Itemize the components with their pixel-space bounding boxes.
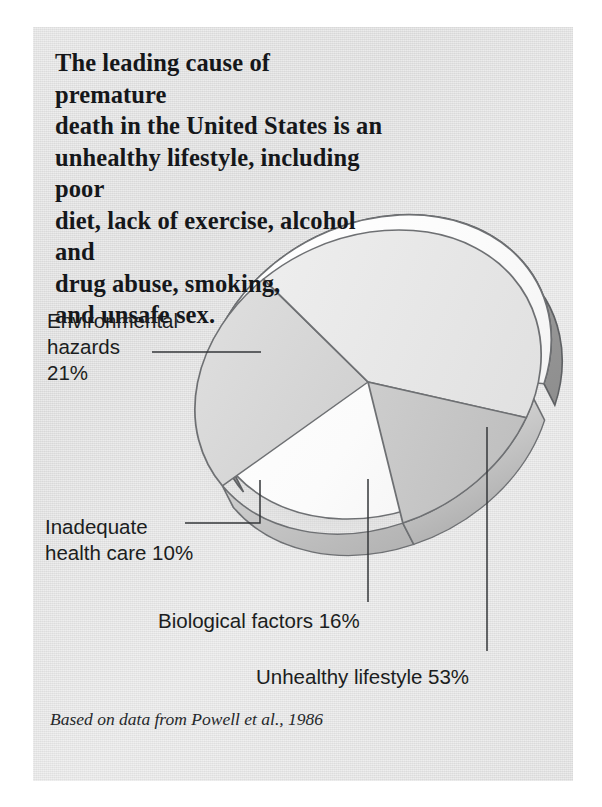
label-environmental-hazards: Environmental hazards 21% (47, 308, 178, 386)
page-title: The leading cause of premature death in … (55, 47, 385, 331)
source-citation: Based on data from Powell et al., 1986 (50, 709, 323, 730)
label-biological-factors: Biological factors 16% (158, 608, 360, 634)
figure-root: The leading cause of premature death in … (0, 0, 602, 807)
label-inadequate-health-care: Inadequate health care 10% (45, 514, 193, 566)
label-unhealthy-lifestyle: Unhealthy lifestyle 53% (256, 664, 469, 690)
